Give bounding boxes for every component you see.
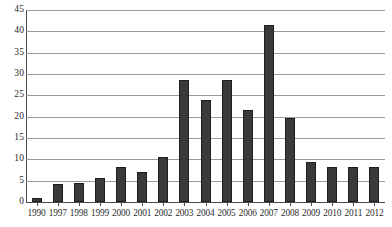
bar <box>74 183 84 202</box>
x-axis-tick-mark <box>311 202 312 206</box>
bar <box>95 178 105 202</box>
x-axis-tick-mark <box>206 202 207 206</box>
bar <box>222 80 232 202</box>
y-axis-tick-label: 45 <box>2 5 24 15</box>
y-axis-tick-label: 5 <box>2 176 24 186</box>
x-axis-tick-label: 2009 <box>302 208 320 219</box>
bar <box>158 157 168 202</box>
bar <box>116 167 126 202</box>
x-axis-tick-mark <box>37 202 38 206</box>
y-axis-tick-label: 15 <box>2 133 24 143</box>
x-axis-tick-mark <box>248 202 249 206</box>
x-axis-tick-label: 2005 <box>218 208 236 219</box>
x-axis-tick-mark <box>184 202 185 206</box>
x-axis-tick-label: 2010 <box>323 208 341 219</box>
bar <box>285 118 295 202</box>
bar <box>348 167 358 202</box>
y-axis-tick-label: 25 <box>2 91 24 101</box>
y-axis-tick-label: 35 <box>2 48 24 58</box>
y-axis-tick-label: 40 <box>2 27 24 37</box>
x-axis-tick-label: 2008 <box>281 208 299 219</box>
x-axis-tick-label: 2004 <box>197 208 215 219</box>
y-axis-tick-label: 30 <box>2 69 24 79</box>
x-axis-tick-label: 1997 <box>49 208 67 219</box>
bar <box>53 184 63 202</box>
bar <box>201 100 211 202</box>
x-axis-tick-mark <box>227 202 228 206</box>
bar-series <box>26 10 385 202</box>
x-axis-tick-label: 2001 <box>133 208 151 219</box>
bar <box>306 162 316 202</box>
x-axis-tick-mark <box>100 202 101 206</box>
x-axis-tick-label: 2000 <box>112 208 130 219</box>
x-axis-tick-label: 2002 <box>154 208 172 219</box>
x-axis-tick-mark <box>58 202 59 206</box>
x-axis-tick-label: 1999 <box>91 208 109 219</box>
x-axis-tick-labels: 1990199719981999200020012002200320042005… <box>26 208 385 224</box>
x-axis-tick-mark <box>79 202 80 206</box>
y-axis-tick-label: 10 <box>2 155 24 165</box>
plot-area <box>26 10 385 202</box>
bar <box>243 110 253 202</box>
bar <box>327 167 337 202</box>
x-axis-tick-label: 2007 <box>260 208 278 219</box>
x-axis-tick-mark <box>121 202 122 206</box>
bar <box>264 25 274 202</box>
y-axis-tick-labels: 454035302520151050 <box>0 0 24 227</box>
x-axis-tick-mark <box>290 202 291 206</box>
x-axis-tick-mark <box>269 202 270 206</box>
bar-chart: 454035302520151050 199019971998199920002… <box>0 0 392 227</box>
x-axis-tick-label: 1998 <box>70 208 88 219</box>
bar <box>137 172 147 202</box>
x-axis-tick-mark <box>332 202 333 206</box>
bar <box>179 80 189 202</box>
bar <box>369 167 379 202</box>
y-axis-tick-label: 20 <box>2 112 24 122</box>
x-axis-tick-label: 2012 <box>365 208 383 219</box>
x-axis-tick-label: 2011 <box>344 208 362 219</box>
x-axis-tick-marks <box>26 202 385 206</box>
x-axis-tick-mark <box>142 202 143 206</box>
x-axis-tick-label: 2003 <box>175 208 193 219</box>
y-axis-tick-label: 0 <box>2 197 24 207</box>
x-axis-tick-mark <box>353 202 354 206</box>
x-axis-tick-label: 2006 <box>239 208 257 219</box>
x-axis-tick-mark <box>163 202 164 206</box>
x-axis-tick-label: 1990 <box>28 208 46 219</box>
x-axis-tick-mark <box>374 202 375 206</box>
